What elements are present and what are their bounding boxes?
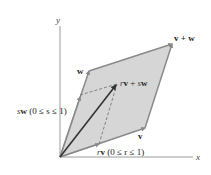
y-axis-label: y [55, 15, 60, 25]
label-rv-plus-sw: rv + sw [120, 78, 148, 88]
label-rv-range-text: (0 ≤ r ≤ 1) [105, 147, 144, 157]
label-w: w [77, 66, 84, 76]
x-axis-label: x [195, 152, 200, 162]
label-rv-plus-sw-w: w [141, 78, 148, 88]
label-v: v [138, 131, 143, 141]
label-rv-range: rv (0 ≤ r ≤ 1) [97, 147, 144, 157]
parallelogram-diagram: y x w v v + w rv + sw sw (0 ≤ s ≤ 1) rv … [0, 0, 211, 175]
label-rv-plus-sw-plus: + [128, 78, 138, 88]
parallelogram-region [60, 44, 172, 157]
label-sw-range-text: (0 ≤ s ≤ 1) [27, 106, 67, 116]
label-v-plus-w: v + w [174, 33, 195, 43]
label-sw-range: sw (0 ≤ s ≤ 1) [17, 106, 67, 116]
